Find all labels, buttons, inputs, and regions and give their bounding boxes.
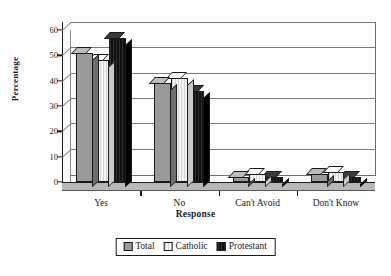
y-tick-mark <box>57 105 62 106</box>
bar <box>76 53 93 182</box>
legend-item: Catholic <box>164 242 208 252</box>
x-axis-title: Response <box>0 209 391 219</box>
legend-swatch <box>217 242 226 251</box>
legend-item: Total <box>123 242 154 252</box>
x-tick-label: Yes <box>94 198 108 208</box>
legend-label: Catholic <box>176 242 208 252</box>
y-tick-mark <box>57 156 62 157</box>
x-tick-label: Don't Know <box>313 198 359 208</box>
bar <box>154 83 171 182</box>
legend-item: Protestant <box>217 242 267 252</box>
bar-side-face <box>187 79 194 187</box>
bar-side-face <box>170 84 177 187</box>
x-tick-mark <box>219 191 220 196</box>
y-tick-mark <box>57 55 62 56</box>
legend: TotalCatholicProtestant <box>115 238 276 256</box>
x-tick-label: No <box>174 198 186 208</box>
x-tick-mark <box>297 191 298 196</box>
plot-area: 0102030405060 YesNoCan't AvoidDon't Know <box>62 30 375 182</box>
gridline <box>70 22 375 23</box>
x-tick-label: Can't Avoid <box>235 198 280 208</box>
bar-chart: Percentage 0102030405060 YesNoCan't Avoi… <box>0 0 391 276</box>
bar <box>233 177 250 182</box>
bar-side-face <box>203 92 210 187</box>
y-tick-mark <box>57 131 62 132</box>
legend-swatch <box>123 242 132 251</box>
x-tick-mark <box>140 191 141 196</box>
bar-side-face <box>92 54 99 187</box>
legend-swatch <box>164 242 173 251</box>
legend-label: Protestant <box>229 242 267 252</box>
y-axis-title: Percentage <box>10 34 20 124</box>
y-tick-mark <box>57 80 62 81</box>
bar <box>311 174 328 182</box>
y-tick-mark <box>57 29 62 30</box>
y-tick-mark <box>57 181 62 182</box>
bar-side-face <box>108 61 115 187</box>
bar-side-face <box>125 39 132 188</box>
legend-label: Total <box>135 242 154 252</box>
